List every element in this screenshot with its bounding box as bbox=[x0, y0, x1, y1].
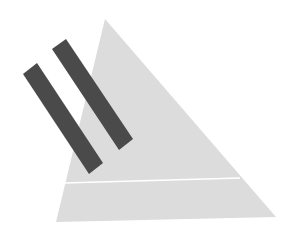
diagram-canvas bbox=[0, 0, 292, 233]
